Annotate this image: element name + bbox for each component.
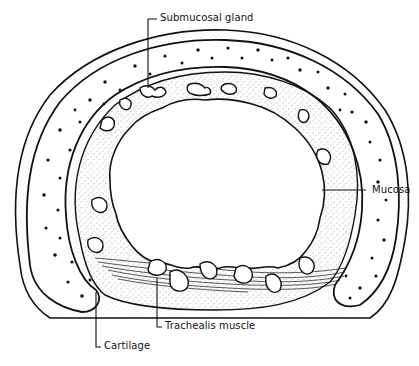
label-submucosal-gland: Submucosal gland [160, 12, 254, 23]
trachea-cross-section-diagram [0, 0, 419, 366]
label-trachealis-muscle: Trachealis muscle [165, 320, 255, 331]
mucosa-lumen [110, 99, 325, 268]
label-mucosa: Mucosa [372, 184, 411, 195]
label-cartilage: Cartilage [104, 340, 150, 351]
